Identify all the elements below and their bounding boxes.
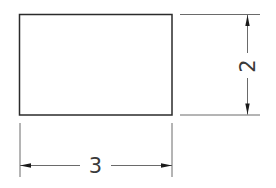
arrow-up-icon xyxy=(245,15,249,26)
height-dimension-label: 2 xyxy=(236,59,260,72)
width-dimension-label: 3 xyxy=(89,154,102,178)
width-dimension: 3 xyxy=(20,123,172,178)
arrow-down-icon xyxy=(245,104,249,115)
arrow-left-icon xyxy=(20,163,31,167)
height-dimension: 2 xyxy=(180,15,260,116)
arrow-right-icon xyxy=(161,163,172,167)
dimension-drawing: 2 3 xyxy=(0,0,276,188)
rectangle-shape xyxy=(20,15,173,116)
